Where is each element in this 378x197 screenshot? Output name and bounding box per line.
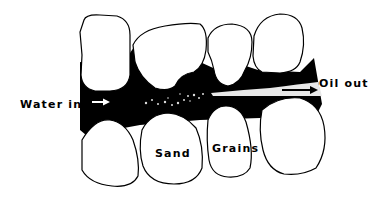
grains-label: Grains <box>212 142 259 155</box>
sand-grain <box>253 14 304 73</box>
water-in-label: Water in <box>20 98 82 111</box>
sand-grain <box>260 98 325 175</box>
oil-out-label: Oil out <box>319 77 369 90</box>
sand-label: Sand <box>155 147 191 160</box>
sand-grain <box>82 120 138 186</box>
sand-grain <box>80 15 130 91</box>
oil-displacement-diagram: Water in Oil out Sand Grains <box>0 0 378 197</box>
